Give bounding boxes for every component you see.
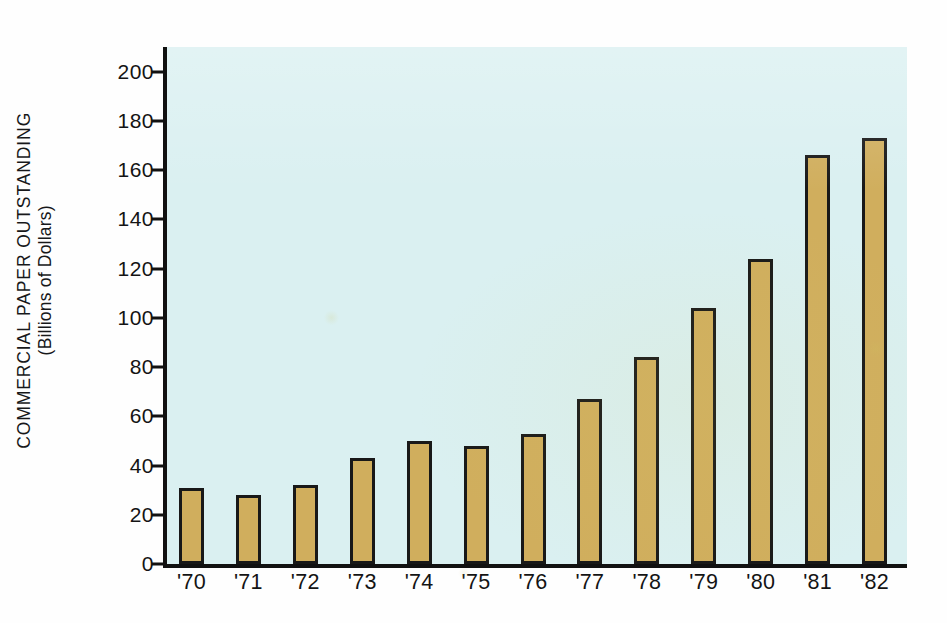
x-axis-tick-label: '81 (803, 570, 832, 595)
bar-81 (805, 155, 830, 564)
bar-71 (236, 495, 261, 564)
x-axis-tick-label: '77 (575, 570, 604, 595)
x-axis-tick-label: '79 (689, 570, 718, 595)
x-axis-tick-labels: '70'71'72'73'74'75'76'77'78'79'80'81'82 (167, 570, 907, 614)
y-axis-tick-label: 0 (142, 552, 154, 576)
bar-76 (521, 434, 546, 564)
y-axis-tick-label: 100 (117, 306, 154, 330)
y-axis-tick-label: 140 (117, 207, 154, 231)
y-axis-tick-label: 60 (130, 404, 154, 428)
x-axis-tick-label: '80 (746, 570, 775, 595)
x-axis-spine (163, 564, 907, 568)
x-axis-tick-label: '75 (462, 570, 491, 595)
x-axis-tick-label: '73 (348, 570, 377, 595)
y-axis-tick-label: 20 (130, 503, 154, 527)
x-axis-tick-label: '74 (405, 570, 434, 595)
bar-70 (179, 488, 204, 564)
y-axis-tick-label: 40 (130, 454, 154, 478)
y-axis-title: COMMERCIAL PAPER OUTSTANDING (Billions o… (0, 0, 70, 560)
bar-82 (862, 138, 887, 564)
bar-75 (464, 446, 489, 564)
y-axis-tick-labels: 020406080100120140160180200 (92, 0, 154, 623)
bars-layer (167, 47, 907, 564)
bar-72 (293, 485, 318, 564)
y-axis-tick-label: 160 (117, 158, 154, 182)
x-axis-tick-label: '72 (291, 570, 320, 595)
x-axis-tick-label: '82 (860, 570, 889, 595)
x-axis-tick-label: '71 (234, 570, 263, 595)
y-axis-tick-label: 120 (117, 257, 154, 281)
bar-chart-figure: COMMERCIAL PAPER OUTSTANDING (Billions o… (0, 0, 947, 623)
x-axis-tick-label: '76 (519, 570, 548, 595)
bar-79 (691, 308, 716, 564)
y-axis-tick-label: 180 (117, 109, 154, 133)
y-axis-title-line1: COMMERCIAL PAPER OUTSTANDING (14, 112, 35, 449)
bar-77 (577, 399, 602, 564)
bar-78 (634, 357, 659, 564)
x-axis-tick-label: '70 (177, 570, 206, 595)
y-axis-tick-label: 80 (130, 355, 154, 379)
bar-80 (748, 259, 773, 564)
plot-area (167, 47, 907, 564)
bar-74 (407, 441, 432, 564)
x-axis-tick-label: '78 (632, 570, 661, 595)
y-axis-tick-label: 200 (117, 60, 154, 84)
y-axis-title-line2: (Billions of Dollars) (35, 112, 56, 449)
bar-73 (350, 458, 375, 564)
